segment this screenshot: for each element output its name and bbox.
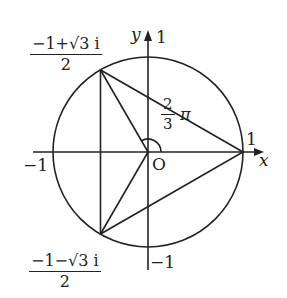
angle-denominator: 3: [161, 115, 175, 132]
angle-fraction: 2 3: [161, 97, 175, 132]
x-tick-positive: 1: [246, 131, 257, 148]
x-tick-negative: −1: [23, 157, 48, 174]
lower-point-label: −1−√3 i 2: [29, 253, 101, 290]
x-axis-label: x: [259, 152, 269, 169]
lower-point-denominator: 2: [29, 272, 101, 290]
lower-point-numerator: −1−√3 i: [29, 253, 101, 272]
unit-circle-diagram: y x O 1 1 −1 −1 −1+√3 i 2 −1−√3 i 2 2 3 …: [0, 0, 287, 298]
upper-point-label: −1+√3 i 2: [30, 36, 102, 73]
segment-lower-origin: [101, 152, 149, 234]
upper-point-denominator: 2: [30, 55, 102, 73]
upper-point-numerator: −1+√3 i: [30, 36, 102, 55]
angle-pi-symbol: π: [180, 107, 191, 123]
y-tick-positive: 1: [156, 29, 167, 46]
y-axis-arrow-icon: [144, 30, 152, 41]
segment-upper-origin: [101, 70, 149, 152]
y-axis-label: y: [131, 26, 141, 43]
y-tick-negative: −1: [150, 254, 175, 271]
angle-numerator: 2: [161, 97, 175, 115]
origin-label: O: [152, 156, 166, 173]
